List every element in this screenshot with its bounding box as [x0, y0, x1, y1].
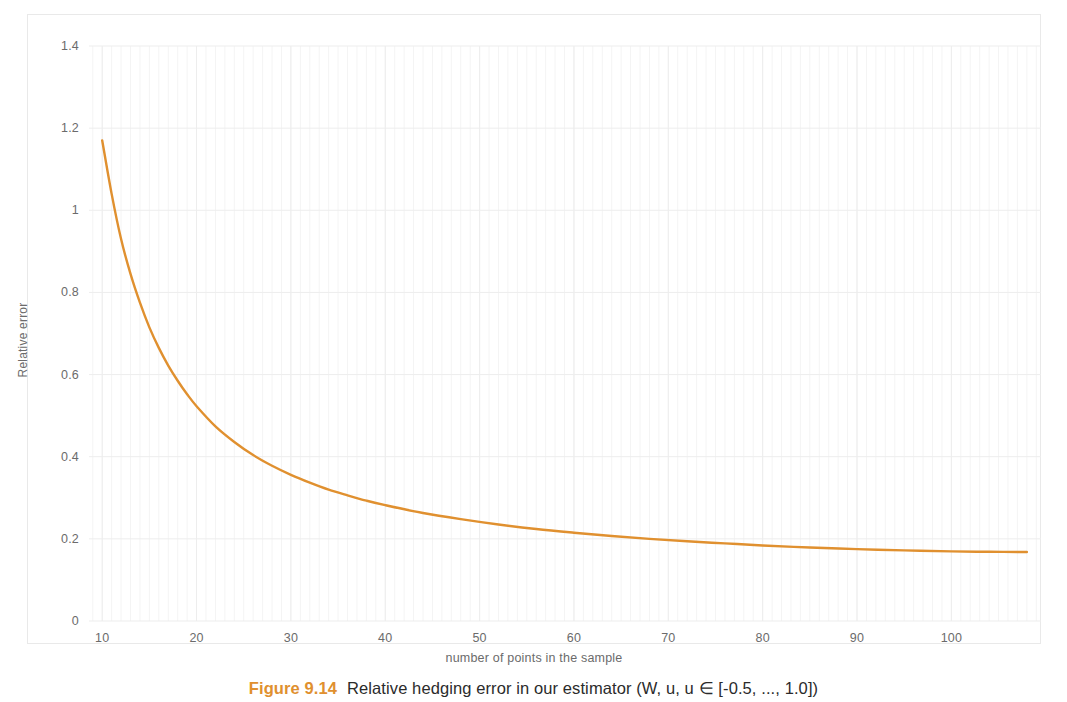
- x-axis-tick-label: 10: [95, 631, 109, 645]
- x-axis-title: number of points in the sample: [27, 651, 1041, 665]
- x-axis-tick-label: 20: [189, 631, 203, 645]
- chart-plot-frame: 00.20.40.60.811.21.4 1020304050607080901…: [27, 14, 1041, 644]
- y-axis-title: Relative error: [16, 303, 30, 378]
- x-axis-tick-label: 50: [472, 631, 486, 645]
- y-axis-tick-label: 0.2: [28, 532, 79, 546]
- y-axis-tick-label: 1.2: [28, 121, 79, 135]
- y-axis-tick-label: 0.6: [28, 368, 79, 382]
- relative-error-line-chart: [28, 15, 1042, 645]
- y-axis-tick-label: 0: [28, 614, 79, 628]
- figure-caption-text: Relative hedging error in our estimator …: [347, 679, 818, 697]
- minor-vertical-gridlines: [93, 46, 1037, 621]
- y-axis-tick-label: 0.8: [28, 285, 79, 299]
- x-axis-tick-label: 90: [850, 631, 864, 645]
- x-axis-tick-label: 80: [756, 631, 770, 645]
- figure-caption-number: Figure 9.14: [249, 679, 337, 697]
- y-axis-tick-label: 1: [28, 203, 79, 217]
- x-axis-tick-label: 30: [284, 631, 298, 645]
- x-axis-tick-label: 70: [661, 631, 675, 645]
- x-axis-tick-label: 100: [941, 631, 962, 645]
- y-axis-tick-label: 1.4: [28, 39, 79, 53]
- y-axis-tick-label: 0.4: [28, 450, 79, 464]
- x-axis-tick-label: 40: [378, 631, 392, 645]
- figure-container: 00.20.40.60.811.21.4 1020304050607080901…: [0, 0, 1067, 702]
- figure-caption: Figure 9.14Relative hedging error in our…: [0, 679, 1067, 698]
- x-axis-tick-label: 60: [567, 631, 581, 645]
